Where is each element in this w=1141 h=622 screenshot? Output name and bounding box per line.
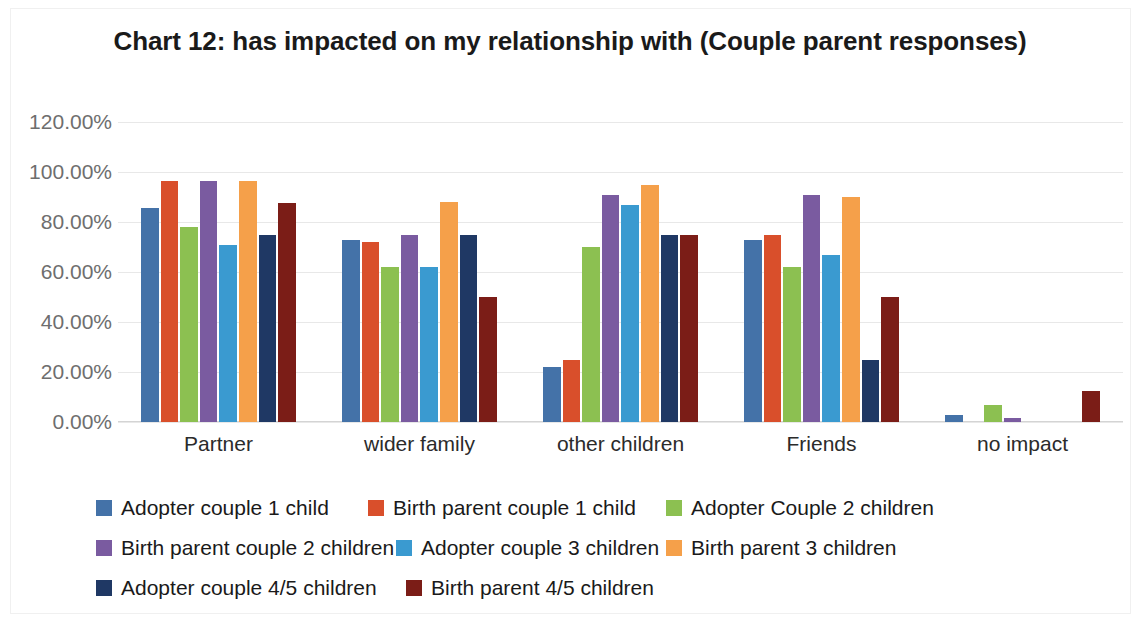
bar[interactable]: [881, 297, 899, 422]
x-axis: Partnerwider familyother childrenFriends…: [118, 432, 1123, 456]
bar[interactable]: [180, 227, 198, 422]
bar[interactable]: [803, 195, 821, 423]
bar[interactable]: [822, 255, 840, 423]
legend-item[interactable]: Birth parent 3 children: [666, 536, 896, 560]
legend-item[interactable]: Birth parent couple 1 child: [368, 496, 636, 520]
bar[interactable]: [259, 235, 277, 423]
bar[interactable]: [401, 235, 419, 423]
y-axis-tick-label: 20.00%: [41, 360, 112, 384]
legend-color-swatch: [396, 540, 412, 556]
legend-label: Birth parent couple 1 child: [393, 496, 636, 520]
legend-color-swatch: [96, 540, 112, 556]
bar[interactable]: [342, 240, 360, 423]
legend-label: Adopter Couple 2 children: [691, 496, 934, 520]
bar[interactable]: [661, 235, 679, 423]
bar[interactable]: [440, 202, 458, 422]
legend-item[interactable]: Birth parent 4/5 children: [406, 576, 654, 600]
y-axis-tick-label: 0.00%: [52, 410, 112, 434]
bar[interactable]: [239, 181, 257, 422]
bar[interactable]: [862, 360, 880, 423]
legend-row: Birth parent couple 2 childrenAdopter co…: [96, 528, 1076, 568]
bar[interactable]: [362, 242, 380, 422]
bar[interactable]: [842, 197, 860, 422]
y-axis: 0.00%20.00%40.00%60.00%80.00%100.00%120.…: [8, 122, 112, 422]
legend-label: Adopter couple 4/5 children: [121, 576, 377, 600]
bar-groups: [118, 122, 1123, 422]
bar[interactable]: [1004, 418, 1022, 422]
x-axis-tick-label: Partner: [118, 432, 319, 456]
bar-group: [721, 122, 922, 422]
legend-item[interactable]: Birth parent couple 2 children: [96, 536, 394, 560]
x-axis-tick-label: wider family: [319, 432, 520, 456]
legend-row: Adopter couple 1 childBirth parent coupl…: [96, 488, 1076, 528]
bar-group-bars: [342, 122, 497, 422]
x-axis-tick-label: other children: [520, 432, 721, 456]
legend-label: Birth parent 3 children: [691, 536, 896, 560]
legend-color-swatch: [368, 500, 384, 516]
bar[interactable]: [945, 415, 963, 423]
bar-group: [520, 122, 721, 422]
bar[interactable]: [563, 360, 581, 423]
legend-label: Adopter couple 1 child: [121, 496, 329, 520]
bar[interactable]: [420, 267, 438, 422]
bar[interactable]: [278, 203, 296, 422]
legend-row: Adopter couple 4/5 childrenBirth parent …: [96, 568, 1076, 608]
legend-label: Adopter couple 3 children: [421, 536, 659, 560]
bar[interactable]: [161, 181, 179, 422]
bar[interactable]: [381, 267, 399, 422]
bar-group-bars: [744, 122, 899, 422]
bar[interactable]: [680, 235, 698, 423]
plot-area: [118, 122, 1123, 422]
bar[interactable]: [1082, 391, 1100, 422]
legend-color-swatch: [96, 500, 112, 516]
x-axis-tick-label: no impact: [922, 432, 1123, 456]
legend-label: Birth parent 4/5 children: [431, 576, 654, 600]
bar-group: [118, 122, 319, 422]
x-axis-tick-label: Friends: [721, 432, 922, 456]
bar-group: [922, 122, 1123, 422]
bar[interactable]: [543, 367, 561, 422]
chart-container: Chart 12: has impacted on my relationshi…: [0, 0, 1141, 622]
bar[interactable]: [582, 247, 600, 422]
bar[interactable]: [621, 205, 639, 423]
legend-color-swatch: [406, 580, 422, 596]
bar-group-bars: [945, 122, 1100, 422]
bar[interactable]: [141, 208, 159, 422]
gridline: [118, 422, 1123, 423]
legend-item[interactable]: Adopter couple 3 children: [396, 536, 659, 560]
y-axis-tick-label: 60.00%: [41, 260, 112, 284]
y-axis-tick-label: 120.00%: [29, 110, 112, 134]
bar-group-bars: [543, 122, 698, 422]
y-axis-tick-label: 40.00%: [41, 310, 112, 334]
bar[interactable]: [460, 235, 478, 423]
bar-group-bars: [141, 122, 296, 422]
bar[interactable]: [783, 267, 801, 422]
y-axis-tick-label: 80.00%: [41, 210, 112, 234]
chart-legend: Adopter couple 1 childBirth parent coupl…: [96, 488, 1076, 608]
legend-color-swatch: [666, 500, 682, 516]
legend-color-swatch: [96, 580, 112, 596]
bar-group: [319, 122, 520, 422]
bar[interactable]: [200, 181, 218, 422]
legend-color-swatch: [666, 540, 682, 556]
legend-item[interactable]: Adopter couple 4/5 children: [96, 576, 377, 600]
bar[interactable]: [764, 235, 782, 423]
legend-item[interactable]: Adopter Couple 2 children: [666, 496, 934, 520]
bar[interactable]: [479, 297, 497, 422]
bar[interactable]: [602, 195, 620, 423]
bar[interactable]: [744, 240, 762, 423]
bar[interactable]: [641, 185, 659, 423]
bar[interactable]: [219, 245, 237, 423]
bar[interactable]: [984, 405, 1002, 423]
legend-item[interactable]: Adopter couple 1 child: [96, 496, 329, 520]
legend-label: Birth parent couple 2 children: [121, 536, 394, 560]
y-axis-tick-label: 100.00%: [29, 160, 112, 184]
